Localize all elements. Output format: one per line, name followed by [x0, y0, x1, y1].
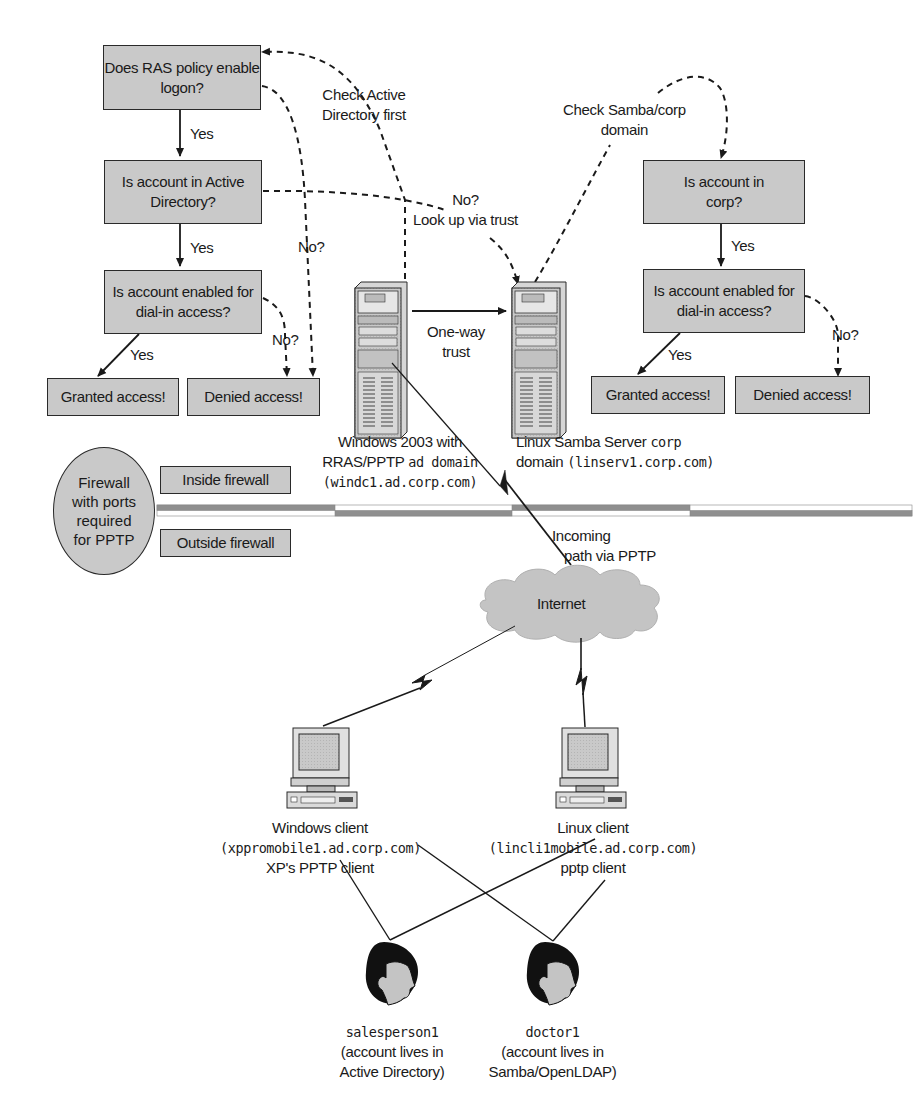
windows-client-label: Windows client (xppromobile1.ad.corp.com…: [220, 818, 420, 878]
right-yes-label-2: Yes: [668, 345, 692, 365]
salesperson-label: salesperson1 (account lives in Active Di…: [322, 1022, 462, 1082]
internet-label: Internet: [537, 594, 585, 614]
left-granted-box: Granted access!: [47, 378, 179, 416]
linux-client-computer-icon: [556, 728, 626, 808]
inside-firewall-box: Inside firewall: [160, 466, 291, 494]
windows-client-computer-icon: [287, 728, 357, 808]
windows-server-label: Windows 2003 with RRAS/PPTP ad domain (w…: [300, 432, 500, 492]
linux-server-label: Linux Samba Server corp domain (linserv1…: [516, 432, 714, 472]
linux-server-icon: [512, 282, 566, 438]
firewall-oval: Firewall with ports required for PPTP: [53, 447, 155, 575]
windows-client-lightning: [323, 626, 515, 726]
right-yes-label-1: Yes: [731, 236, 755, 256]
firewall-bar: [157, 505, 912, 516]
right-no-label: No?: [832, 325, 859, 345]
left-q-account-in-ad: Is account in Active Directory?: [104, 160, 262, 224]
incoming-pptp-label: Incoming path via PPTP: [552, 526, 656, 566]
right-q-dial-in-enabled: Is account enabled for dial-in access?: [643, 269, 805, 333]
left-no-label-1: No?: [298, 237, 325, 257]
doctor-avatar-icon: [527, 942, 579, 1005]
left-q-dial-in-enabled: Is account enabled for dial-in access?: [104, 270, 262, 334]
left-yes-label-3: Yes: [130, 345, 154, 365]
outside-firewall-box: Outside firewall: [160, 529, 291, 557]
right-granted-box: Granted access!: [591, 376, 725, 414]
check-ad-first-label: Check Active Directory first: [322, 85, 406, 125]
doctor-label: doctor1 (account lives in Samba/OpenLDAP…: [480, 1022, 625, 1082]
left-q-ras-policy: Does RAS policy enable logon?: [103, 45, 261, 110]
linux-client-lightning: [576, 638, 587, 727]
lookup-via-trust-label: No? Look up via trust: [413, 190, 518, 230]
left-no-label-2: No?: [272, 330, 299, 350]
one-way-trust-label: One-way trust: [427, 322, 485, 362]
left-denied-box: Denied access!: [187, 378, 320, 416]
linux-client-label: Linux client (lincli1mobile.ad.corp.com)…: [488, 818, 698, 878]
left-yes-label-1: Yes: [190, 124, 214, 144]
right-denied-box: Denied access!: [735, 376, 870, 414]
left-yes-arrows: [98, 110, 180, 376]
check-samba-label: Check Samba/corp domain: [563, 100, 686, 140]
salesperson-avatar-icon: [366, 942, 418, 1005]
right-q-account-in-corp: Is account in corp?: [643, 160, 805, 224]
windows-server-icon: [355, 282, 407, 438]
left-yes-label-2: Yes: [190, 238, 214, 258]
